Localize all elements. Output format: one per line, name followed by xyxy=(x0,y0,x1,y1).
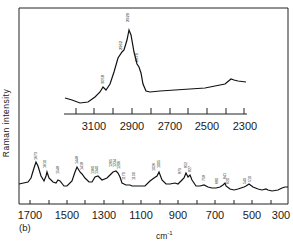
panel-label: (b) xyxy=(19,222,31,233)
peak-label: 2929 xyxy=(125,12,130,22)
peak-label: 879 xyxy=(178,168,182,174)
main-tick-label: 1300 xyxy=(92,209,116,221)
inset-spectrum: 3100 2900 2700 2500 2300 3058 2962 2929 … xyxy=(64,12,257,132)
peak-label: 758 xyxy=(202,175,206,181)
main-tick-label: 1100 xyxy=(129,209,153,221)
peak-label: 3058 xyxy=(100,74,105,84)
peak-label: 1418 xyxy=(80,162,84,170)
x-axis-label: cm-1 xyxy=(156,230,173,241)
peak-label: 827 xyxy=(188,166,192,172)
peak-label: 540 xyxy=(243,178,247,184)
inset-tick-label: 2500 xyxy=(195,120,219,132)
peak-label: 1610 xyxy=(43,160,47,168)
peak-label: 1673 xyxy=(34,152,38,160)
peak-label: 620 xyxy=(226,178,230,184)
peak-label: 1206 xyxy=(117,161,121,169)
raman-spectrum-chart: 3100 2900 2700 2500 2300 3058 2962 2929 … xyxy=(0,0,293,245)
y-axis-label: Raman intensity xyxy=(1,89,11,157)
main-tick-label: 1700 xyxy=(18,209,42,221)
peak-label: 2870 xyxy=(134,52,139,62)
inset-tick-label: 3100 xyxy=(82,120,106,132)
main-tick-label: 1500 xyxy=(55,209,79,221)
peak-label: 1340 xyxy=(95,166,99,174)
inset-tick-label: 2700 xyxy=(158,120,182,132)
main-tick-label: 900 xyxy=(169,209,187,221)
peak-label: 2962 xyxy=(118,40,123,50)
peak-label: 680 xyxy=(215,178,219,184)
main-tick-label: 500 xyxy=(243,209,261,221)
peak-label: 1005 xyxy=(157,160,161,168)
peak-label: 510 xyxy=(248,176,252,182)
peak-label: 1170 xyxy=(122,172,126,180)
inset-tick-label: 2300 xyxy=(233,120,257,132)
main-tick-label: 300 xyxy=(272,209,290,221)
inset-tick-label: 2900 xyxy=(120,120,144,132)
peak-label: 1548 xyxy=(56,166,60,174)
peak-label: 1026 xyxy=(152,163,156,171)
main-tick-label: 700 xyxy=(206,209,224,221)
peak-label: 1130 xyxy=(132,172,136,180)
x-unit-exponent: -1 xyxy=(167,230,172,236)
peak-label: 1448 xyxy=(75,156,79,164)
main-spectrum: 1700 1500 1300 1100 900 700 500 300 1673… xyxy=(18,152,290,221)
x-unit: cm xyxy=(156,231,167,241)
